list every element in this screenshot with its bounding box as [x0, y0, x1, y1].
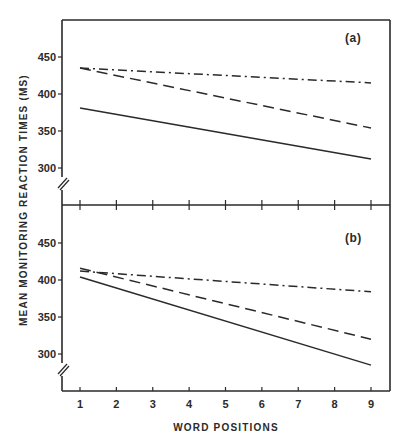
x-tick-label: 3 [150, 398, 156, 410]
y-ticks-panel-a: 300350400450 [38, 51, 62, 174]
panel-label-a: (a) [345, 31, 361, 45]
x-tick-label: 2 [113, 398, 119, 410]
x-tick-label: 7 [295, 398, 301, 410]
series-line-dash-dot [80, 68, 371, 83]
y-ticks-panel-b: 300350400450 [38, 237, 62, 360]
series-panel-b [80, 268, 371, 365]
y-tick-label: 350 [38, 125, 56, 137]
chart: 300350400450 300350400450 123456789 (a) … [0, 0, 404, 442]
y-axis-title: MEAN MONITORING REACTION TIMES (MS) [18, 74, 29, 326]
y-tick-label: 450 [38, 237, 56, 249]
series-line-solid [80, 277, 371, 365]
y-tick-label: 300 [38, 348, 56, 360]
axis-break-b [58, 364, 69, 376]
x-tick-label: 1 [77, 398, 83, 410]
series-line-dashed [80, 68, 371, 128]
y-tick-label: 400 [38, 274, 56, 286]
series-panel-a [80, 68, 371, 159]
x-ticks: 123456789 [77, 200, 374, 410]
x-tick-label: 4 [186, 398, 193, 410]
y-tick-label: 400 [38, 88, 56, 100]
series-line-dash-dot [80, 271, 371, 292]
series-line-solid [80, 108, 371, 159]
x-tick-label: 6 [259, 398, 265, 410]
y-tick-label: 350 [38, 311, 56, 323]
x-axis-title: WORD POSITIONS [173, 422, 279, 433]
y-tick-label: 300 [38, 162, 56, 174]
axis-break-a [58, 178, 69, 190]
x-tick-label: 8 [332, 398, 338, 410]
y-tick-label: 450 [38, 51, 56, 63]
panel-label-b: (b) [345, 231, 362, 245]
x-tick-label: 5 [222, 398, 228, 410]
series-line-dashed [80, 268, 371, 339]
x-tick-label: 9 [368, 398, 374, 410]
